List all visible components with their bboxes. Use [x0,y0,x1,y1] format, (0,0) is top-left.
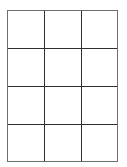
grid-cell[interactable] [8,87,44,124]
grid-cell[interactable] [45,11,81,48]
grid-cell[interactable] [8,125,44,161]
grid-cell[interactable] [45,87,81,124]
grid-cell[interactable] [45,49,81,86]
grid-cell[interactable] [45,125,81,161]
grid-cell[interactable] [82,87,117,124]
grid-cell[interactable] [82,125,117,161]
grid-cell[interactable] [82,49,117,86]
empty-grid-table [7,10,118,162]
canvas [0,0,127,167]
grid-cell[interactable] [8,49,44,86]
grid-cell[interactable] [8,11,44,48]
grid-cell[interactable] [82,11,117,48]
